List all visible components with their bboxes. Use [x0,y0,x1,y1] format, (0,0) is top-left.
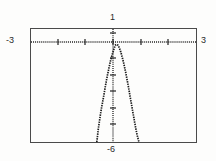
y-axis-min-label: -6 [107,145,115,154]
x-axis-min-label: -3 [6,36,14,45]
x-axis-max-label: 3 [201,36,206,45]
plot-frame [30,28,197,143]
y-axis-max-label: 1 [110,13,115,22]
calculator-screen: -3 3 1 -6 [0,0,216,161]
